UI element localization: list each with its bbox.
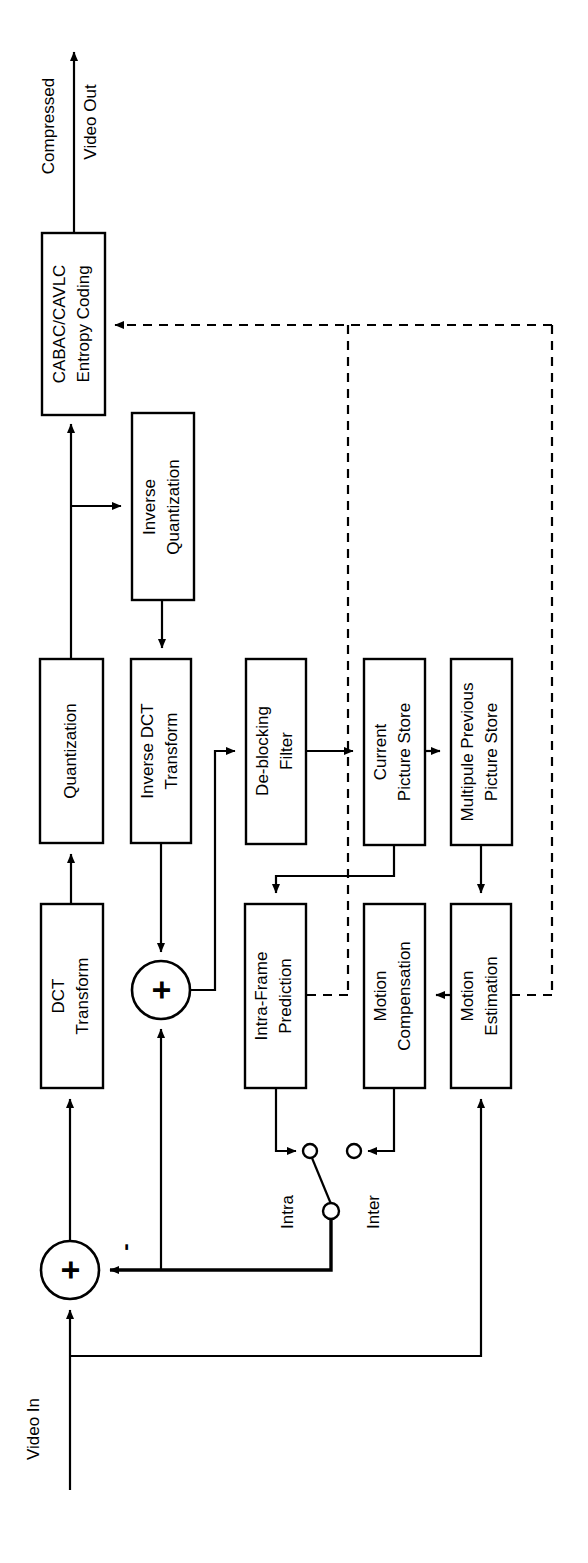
mode-switch-group[interactable]: [303, 1144, 361, 1219]
label-current-picture-store-line1: Current: [371, 723, 390, 780]
label-video-in: Video In: [24, 1398, 43, 1460]
switch-common-pole[interactable]: [323, 1203, 339, 1219]
label-inverse-quantization-line2: Quantization: [164, 459, 183, 554]
label-quantization-line1: Quantization: [61, 703, 80, 798]
path-current-store-to-intra-prediction: [276, 845, 394, 893]
encoder-block-diagram: CABAC/CAVLC Entropy Coding Inverse Quant…: [0, 0, 588, 1563]
label-intra-frame-prediction-line1: Intra-Frame: [252, 952, 271, 1041]
label-dct-line1: DCT: [49, 979, 68, 1014]
residual-difference-minus-glyph: -: [112, 1243, 137, 1250]
label-deblocking-line2: Filter: [277, 732, 296, 770]
label-motion-compensation-line1: Motion: [371, 970, 390, 1021]
label-entropy-coding-line1: CABAC/CAVLC: [50, 265, 69, 384]
label-compressed-video-out-line1: Compressed: [39, 78, 58, 174]
switch-blade[interactable]: [312, 1158, 331, 1204]
label-deblocking-line1: De-blocking: [253, 706, 272, 796]
reconstruction-sum-plus-glyph: +: [142, 980, 180, 1000]
label-inverse-quantization-line1: Inverse: [140, 479, 159, 535]
path-motion-compensation-to-switch: [368, 1088, 394, 1151]
path-sum-to-deblocking: [189, 751, 235, 990]
switch-contact-intra[interactable]: [303, 1144, 317, 1158]
label-switch-intra: Intra: [278, 1194, 297, 1229]
label-inverse-dct-line1: Inverse DCT: [138, 703, 157, 798]
label-motion-estimation-line2: Estimation: [482, 956, 501, 1035]
label-previous-picture-store-line2: Picture Store: [482, 703, 501, 801]
label-current-picture-store-line2: Picture Store: [395, 703, 414, 801]
path-switch-to-difference-node: [110, 1218, 331, 1270]
label-motion-compensation-line2: Compensation: [395, 941, 414, 1051]
diagram-canvas: CABAC/CAVLC Entropy Coding Inverse Quant…: [0, 0, 588, 1563]
residual-difference-plus-glyph: +: [51, 1260, 89, 1280]
label-inverse-dct-line2: Transform: [162, 713, 181, 790]
label-previous-picture-store-line1: Multipule Previous: [458, 683, 477, 822]
label-intra-frame-prediction-line2: Prediction: [276, 958, 295, 1034]
label-dct-line2: Transform: [73, 958, 92, 1035]
label-motion-estimation-line1: Motion: [458, 970, 477, 1021]
label-compressed-video-out-line2: Video Out: [81, 84, 100, 160]
label-switch-inter: Inter: [364, 1195, 383, 1229]
switch-contact-inter[interactable]: [347, 1144, 361, 1158]
label-entropy-coding-line2: Entropy Coding: [74, 265, 93, 382]
path-intra-prediction-to-switch: [276, 1088, 296, 1151]
